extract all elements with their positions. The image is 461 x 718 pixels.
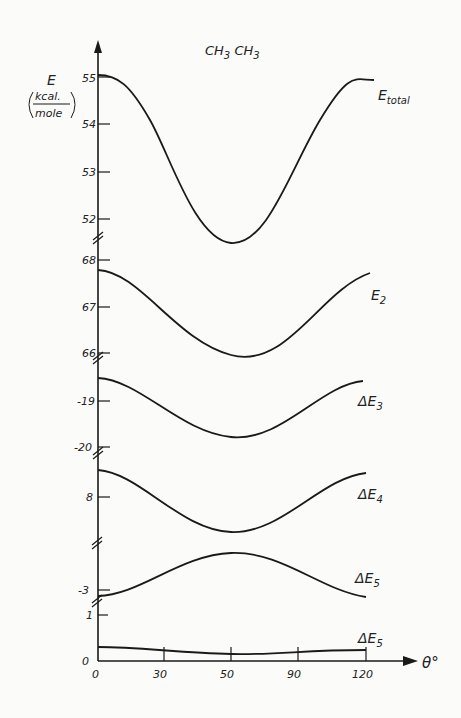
y-ticks-de5b: 1 0 bbox=[82, 609, 108, 668]
svg-text:52: 52 bbox=[82, 213, 96, 226]
label-de4: ΔE4 bbox=[357, 486, 383, 505]
svg-text:53: 53 bbox=[82, 166, 96, 179]
label-e2: E2 bbox=[371, 287, 386, 306]
curve-e-total bbox=[98, 75, 374, 243]
svg-text:68: 68 bbox=[82, 254, 96, 267]
svg-text:30: 30 bbox=[153, 668, 167, 681]
svg-text:8: 8 bbox=[86, 491, 93, 504]
svg-text:-20: -20 bbox=[74, 441, 92, 454]
svg-text:55: 55 bbox=[82, 72, 96, 85]
svg-text:-19: -19 bbox=[77, 395, 95, 408]
curve-de5-upper bbox=[98, 553, 366, 597]
label-de5-lower: ΔE5 bbox=[357, 630, 383, 649]
svg-text:0: 0 bbox=[92, 668, 99, 681]
curve-e2 bbox=[98, 270, 370, 357]
svg-text:90: 90 bbox=[287, 668, 301, 681]
svg-text:50: 50 bbox=[220, 668, 234, 681]
chart-title: CH3 CH3 bbox=[205, 43, 260, 61]
svg-text:0: 0 bbox=[82, 655, 89, 668]
curve-de4 bbox=[98, 470, 366, 532]
y-axis-arrow-icon bbox=[94, 40, 102, 53]
label-de5-upper: ΔE5 bbox=[354, 570, 380, 589]
svg-text:1: 1 bbox=[86, 609, 93, 622]
x-axis-label: θ° bbox=[422, 654, 439, 672]
y-axis-label: E bbox=[47, 72, 56, 88]
x-axis-arrow-icon bbox=[403, 656, 418, 666]
y-ticks-total: 55 54 53 52 bbox=[82, 72, 110, 226]
svg-text:66: 66 bbox=[82, 347, 96, 360]
svg-text:-3: -3 bbox=[78, 584, 89, 597]
energy-chart: CH3 CH3 E kcal. mole 55 54 53 52 68 67 6… bbox=[0, 0, 461, 718]
curve-de3 bbox=[98, 378, 363, 437]
y-ticks-de3: -19 -20 bbox=[74, 395, 110, 454]
x-ticks: 0 30 50 90 120 bbox=[92, 647, 373, 681]
y-ticks-e2: 68 67 66 bbox=[82, 254, 110, 360]
svg-text:67: 67 bbox=[82, 301, 96, 314]
svg-text:54: 54 bbox=[82, 118, 96, 131]
paren-right bbox=[71, 92, 75, 118]
y-axis-unit-top: kcal. bbox=[35, 90, 61, 103]
svg-text:120: 120 bbox=[352, 668, 373, 681]
paren-left bbox=[29, 92, 33, 118]
curve-de5-lower bbox=[98, 647, 366, 654]
label-e-total: Etotal bbox=[378, 87, 410, 106]
y-axis-unit-bottom: mole bbox=[35, 107, 63, 120]
label-de3: ΔE3 bbox=[357, 393, 383, 412]
